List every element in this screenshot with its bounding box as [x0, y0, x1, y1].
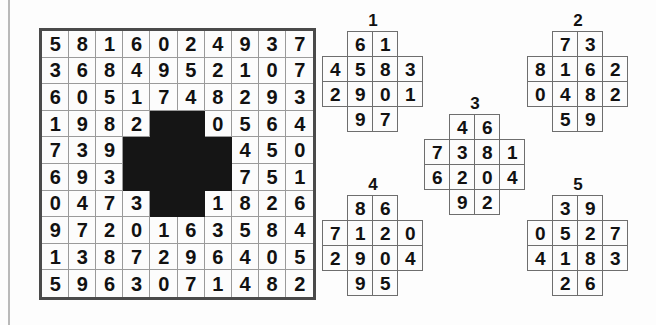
grid-cell: 7 — [69, 217, 96, 244]
grid-cell: 8 — [96, 244, 123, 271]
grid-cell: 3 — [286, 84, 313, 111]
grid-cell: 4 — [178, 84, 205, 111]
grid-hole-cell — [150, 111, 177, 138]
grid-cell: 5 — [232, 217, 259, 244]
grid-cell: 6 — [123, 31, 150, 58]
piece-cell: 5 — [372, 270, 398, 296]
piece-3-label: 3 — [425, 95, 525, 113]
grid-cell: 0 — [150, 270, 177, 297]
grid-cell: 5 — [42, 31, 69, 58]
piece-empty-cell — [528, 271, 553, 296]
piece-empty-cell — [323, 196, 348, 221]
piece-cell: 1 — [397, 81, 423, 107]
piece-cell: 8 — [372, 56, 398, 82]
grid-cell: 8 — [259, 270, 286, 297]
piece-cell: 8 — [474, 139, 500, 165]
piece-cell: 9 — [347, 270, 373, 296]
grid-cell: 2 — [123, 111, 150, 138]
piece-cell: 9 — [449, 189, 475, 215]
grid-cell: 1 — [205, 191, 232, 218]
grid-cell: 1 — [42, 244, 69, 271]
piece-empty-cell — [425, 115, 450, 140]
piece-cell: 7 — [372, 106, 398, 132]
grid-cell: 7 — [150, 84, 177, 111]
piece-empty-cell — [323, 107, 348, 132]
grid-cell: 9 — [69, 164, 96, 191]
piece-5-grid: 390527418326 — [528, 196, 628, 296]
piece-cell: 5 — [552, 220, 578, 246]
piece-5-label: 5 — [528, 176, 628, 194]
page-edge-line — [8, 0, 10, 325]
grid-cell: 2 — [232, 84, 259, 111]
grid-cell: 2 — [205, 58, 232, 85]
piece-empty-cell — [528, 196, 553, 221]
piece-cell: 2 — [449, 164, 475, 190]
grid-cell: 8 — [205, 84, 232, 111]
grid-cell: 5 — [178, 58, 205, 85]
piece-cell: 7 — [602, 220, 628, 246]
grid-cell: 6 — [42, 84, 69, 111]
grid-cell: 2 — [286, 270, 313, 297]
piece-cell: 2 — [602, 56, 628, 82]
grid-cell: 1 — [286, 164, 313, 191]
piece-cell: 6 — [372, 195, 398, 221]
grid-cell: 4 — [286, 111, 313, 138]
piece-cell: 7 — [322, 220, 348, 246]
piece-1-grid: 614583290197 — [323, 32, 423, 132]
piece-cell: 1 — [372, 31, 398, 57]
piece-cell: 5 — [347, 56, 373, 82]
grid-hole-cell — [150, 164, 177, 191]
piece-cell: 6 — [347, 31, 373, 57]
piece-cell: 0 — [397, 220, 423, 246]
grid-cell: 6 — [205, 244, 232, 271]
piece-cell: 4 — [397, 245, 423, 271]
grid-cell: 1 — [96, 31, 123, 58]
piece-empty-cell — [425, 190, 450, 215]
grid-cell: 6 — [178, 217, 205, 244]
piece-1-label: 1 — [323, 12, 423, 30]
piece-cell: 1 — [499, 139, 525, 165]
grid-cell: 0 — [259, 58, 286, 85]
piece-2-label: 2 — [528, 12, 628, 30]
grid-cell: 8 — [96, 58, 123, 85]
piece-cell: 6 — [474, 114, 500, 140]
piece-empty-cell — [323, 271, 348, 296]
grid-cell: 4 — [286, 217, 313, 244]
grid-hole-cell — [205, 164, 232, 191]
grid-cell: 2 — [150, 244, 177, 271]
grid-cell: 9 — [178, 244, 205, 271]
piece-empty-cell — [603, 196, 628, 221]
piece-cell: 4 — [552, 81, 578, 107]
piece-cell: 0 — [372, 81, 398, 107]
piece-cell: 8 — [577, 245, 603, 271]
grid-cell: 6 — [42, 164, 69, 191]
piece-cell: 8 — [347, 195, 373, 221]
grid-cell: 1 — [123, 84, 150, 111]
piece-cell: 4 — [527, 245, 553, 271]
piece-cell: 8 — [577, 81, 603, 107]
grid-cell: 0 — [205, 111, 232, 138]
grid-cell: 5 — [259, 164, 286, 191]
piece-cell: 2 — [602, 81, 628, 107]
grid-cell: 3 — [69, 137, 96, 164]
grid-cell: 4 — [123, 58, 150, 85]
piece-cell: 9 — [347, 106, 373, 132]
piece-cell: 1 — [552, 245, 578, 271]
grid-cell: 6 — [286, 191, 313, 218]
piece-cell: 6 — [424, 164, 450, 190]
piece-cell: 2 — [552, 270, 578, 296]
grid-cell: 2 — [178, 31, 205, 58]
grid-cell: 7 — [286, 58, 313, 85]
piece-cell: 3 — [602, 245, 628, 271]
piece-cell: 3 — [449, 139, 475, 165]
piece-2-grid: 738162048259 — [528, 32, 628, 132]
grid-cell: 9 — [42, 217, 69, 244]
piece-empty-cell — [323, 32, 348, 57]
grid-cell: 3 — [259, 31, 286, 58]
piece-4-grid: 867120290495 — [323, 196, 423, 296]
grid-cell: 8 — [259, 217, 286, 244]
piece-cell: 6 — [577, 270, 603, 296]
grid-cell: 6 — [96, 270, 123, 297]
grid-cell: 3 — [123, 270, 150, 297]
grid-cell: 9 — [150, 58, 177, 85]
